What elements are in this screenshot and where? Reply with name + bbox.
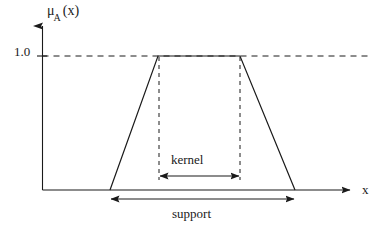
mu-subscript: A	[54, 12, 61, 23]
x-axis-label: x	[362, 183, 369, 196]
membership-function-curve	[110, 56, 295, 190]
fuzzy-set-membership-figure: μA(x) 1.0 x kernel support	[0, 0, 380, 240]
mu-argument: (x)	[63, 3, 79, 18]
kernel-annotation-label: kernel	[171, 153, 203, 166]
y-axis-label: μA(x)	[47, 4, 79, 21]
figure-canvas	[0, 0, 380, 240]
support-annotation-label: support	[172, 207, 211, 220]
y-axis-tick-label: 1.0	[14, 45, 30, 58]
